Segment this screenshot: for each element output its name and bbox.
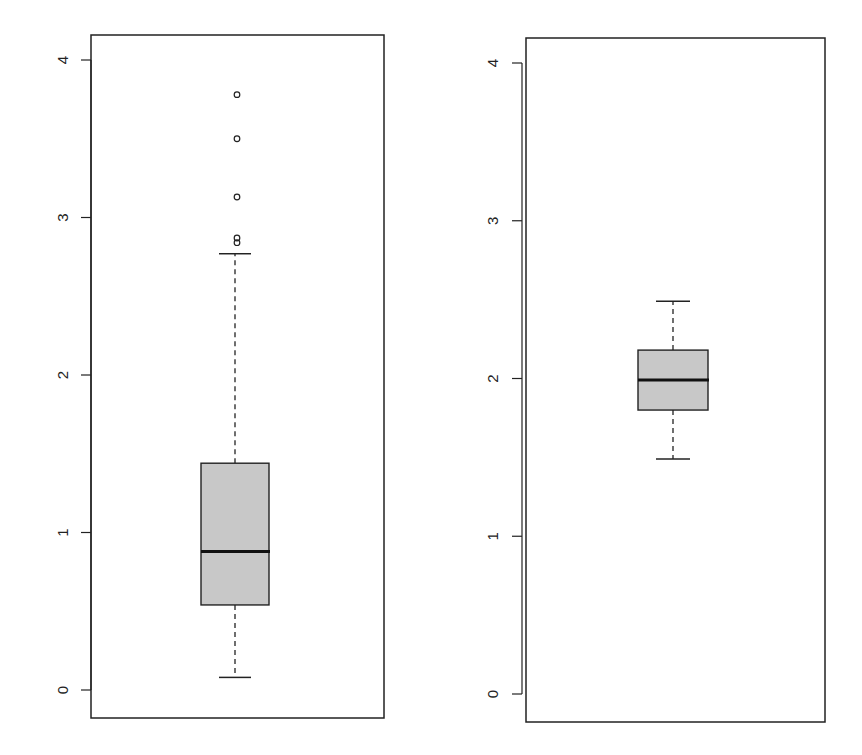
- y-tick-label: 1: [54, 528, 71, 536]
- y-tick-label: 4: [54, 56, 71, 64]
- outlier-point: [234, 194, 240, 200]
- outlier-point: [234, 92, 240, 98]
- y-tick-label: 3: [484, 217, 501, 225]
- y-tick-label: 2: [484, 374, 501, 382]
- y-tick-label: 1: [484, 532, 501, 540]
- boxplot-figure: 01234 01234: [0, 0, 862, 755]
- plot-frame: [91, 35, 384, 718]
- outlier-point: [234, 136, 240, 142]
- iqr-box: [201, 463, 269, 605]
- y-tick-label: 0: [484, 690, 501, 698]
- y-tick-label: 0: [54, 686, 71, 694]
- y-tick-label: 3: [54, 213, 71, 221]
- y-tick-label: 4: [484, 59, 501, 67]
- right-boxplot-panel: 01234: [484, 38, 826, 722]
- left-boxplot-panel: 01234: [54, 35, 385, 718]
- y-tick-label: 2: [54, 371, 71, 379]
